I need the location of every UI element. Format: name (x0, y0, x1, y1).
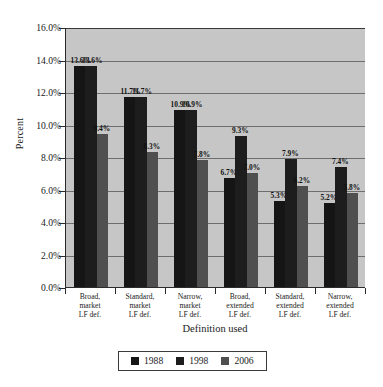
bar-1988-1[interactable] (124, 97, 136, 287)
bar-1988-2[interactable] (174, 110, 186, 287)
bar-group: 5.2%7.4%5.8% (316, 28, 366, 287)
bar-value-label: 11.7% (132, 88, 152, 95)
legend-item-2006[interactable]: 2006 (221, 356, 253, 366)
bar-value-label: 8.3% (144, 143, 161, 150)
bar-value-label: 5.8% (344, 184, 361, 191)
bar-2006-5[interactable] (347, 193, 359, 287)
y-axis-tick-label: 4.0% (11, 218, 61, 228)
y-axis-title: Percent (14, 89, 25, 179)
y-axis-tick-label: 16.0% (11, 23, 61, 33)
legend-swatch-icon (176, 357, 184, 365)
x-axis-category-label: Narrow, extended LF def. (311, 292, 369, 320)
bar-value-label: 7.9% (282, 150, 299, 157)
bar-1998-2[interactable] (185, 110, 197, 287)
bar-2006-0[interactable] (97, 134, 109, 287)
bar-group: 11.7%11.7%8.3% (116, 28, 166, 287)
bar-group: 5.3%7.9%6.2% (266, 28, 316, 287)
legend-swatch-icon (131, 357, 139, 365)
bar-1988-5[interactable] (324, 203, 336, 288)
chart-legend: 198819982006 (118, 351, 267, 371)
legend-swatch-icon (221, 357, 229, 365)
legend-label: 2006 (234, 356, 253, 366)
y-axis-tick-label: 14.0% (11, 56, 61, 66)
x-axis-title: Definition used (65, 323, 365, 334)
bar-group: 6.7%9.3%7.0% (216, 28, 266, 287)
bar-group: 10.9%10.9%7.8% (166, 28, 216, 287)
bar-2006-2[interactable] (197, 160, 209, 287)
bar-value-label: 7.8% (194, 151, 211, 158)
bar-1998-0[interactable] (85, 66, 97, 287)
y-axis-tick-label: 10.0% (11, 121, 61, 131)
y-axis-tick-label: 8.0% (11, 153, 61, 163)
y-axis-tick-label: 2.0% (11, 251, 61, 261)
bar-1988-0[interactable] (74, 66, 86, 287)
bar-value-label: 9.3% (232, 127, 249, 134)
y-axis-tick-label: 0.0% (11, 283, 61, 293)
plot-area: 13.6%13.6%9.4%11.7%11.7%8.3%10.9%10.9%7.… (65, 28, 365, 288)
bar-1998-3[interactable] (235, 136, 247, 287)
bar-value-label: 13.6% (82, 57, 102, 64)
bar-1988-3[interactable] (224, 178, 236, 287)
bar-1988-4[interactable] (274, 201, 286, 287)
bar-value-label: 10.9% (182, 101, 202, 108)
bar-2006-4[interactable] (297, 186, 309, 287)
bar-chart-figure: Percent 0.0%2.0%4.0%6.0%8.0%10.0%12.0%14… (0, 0, 383, 387)
legend-label: 1998 (189, 356, 208, 366)
bar-group: 13.6%13.6%9.4% (66, 28, 116, 287)
bar-2006-1[interactable] (147, 152, 159, 287)
legend-item-1988[interactable]: 1988 (131, 356, 163, 366)
bar-2006-3[interactable] (247, 173, 259, 287)
bar-1998-1[interactable] (135, 97, 147, 287)
legend-label: 1988 (144, 356, 163, 366)
bar-value-label: 7.0% (244, 164, 261, 171)
y-axis-tick-label: 12.0% (11, 88, 61, 98)
bar-value-label: 7.4% (332, 158, 349, 165)
bar-value-label: 9.4% (94, 125, 111, 132)
legend-item-1998[interactable]: 1998 (176, 356, 208, 366)
y-axis-tick-label: 6.0% (11, 186, 61, 196)
bar-value-label: 6.2% (294, 177, 311, 184)
